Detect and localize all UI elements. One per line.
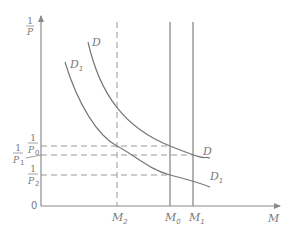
svg-text:P: P xyxy=(27,145,35,155)
y-axis-label: 1 P xyxy=(26,16,34,37)
curve-d-top-label: D xyxy=(91,36,101,49)
m1-label: M1 xyxy=(188,211,205,226)
svg-text:2: 2 xyxy=(35,180,39,188)
curve-d1-top-label: D1 xyxy=(69,58,83,73)
x-axis-label: M xyxy=(267,212,280,225)
money-demand-diagram: 1 P 0 M D D1 D D1 1 P 0 1 P 1 1 P 2 M2 xyxy=(0,0,290,233)
m0-label: M0 xyxy=(164,211,181,226)
curve-d1-right-label: D1 xyxy=(209,170,223,185)
y-axis-label-denominator: P xyxy=(26,27,34,37)
y-axis-label-numerator: 1 xyxy=(27,16,33,26)
origin-label: 0 xyxy=(31,200,37,211)
p2-label: 1 P 2 xyxy=(27,164,40,188)
svg-text:1: 1 xyxy=(20,159,24,167)
svg-text:1: 1 xyxy=(30,164,36,174)
p0-label: 1 P 0 xyxy=(27,133,40,157)
svg-text:P: P xyxy=(12,155,20,165)
demand-curve-d xyxy=(88,42,210,158)
svg-text:1: 1 xyxy=(15,143,21,153)
svg-text:P: P xyxy=(27,176,35,186)
demand-curve-d1 xyxy=(65,62,210,187)
svg-text:1: 1 xyxy=(30,133,36,143)
curve-d-right-label: D xyxy=(202,145,212,158)
m2-label: M2 xyxy=(111,211,128,226)
